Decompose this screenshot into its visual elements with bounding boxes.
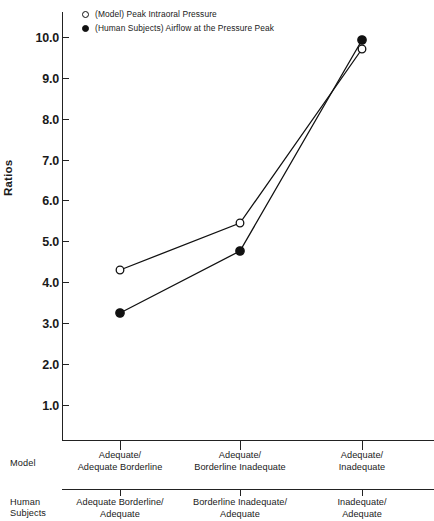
human-category-3-label: Inadequate/ Adequate: [337, 497, 386, 520]
human-category-2-line1: Borderline Inadequate/: [193, 497, 287, 509]
human-category-1-label: Adequate Borderline/ Adequate: [76, 497, 163, 520]
x-tick-1: [120, 441, 121, 450]
model-category-2-line1: Adequate/: [194, 450, 285, 462]
band-title-model: Model: [10, 458, 36, 469]
model-category-2-line2: Borderline Inadequate: [194, 462, 285, 474]
x-tick-3: [362, 441, 363, 450]
band2-tick-3: [362, 489, 363, 496]
y-tick-10: 10.0: [63, 37, 69, 38]
model-category-3-line2: Inadequate: [339, 462, 385, 474]
chart-canvas: (Model) Peak Intraoral Pressure (Human S…: [0, 0, 434, 521]
y-tick-7: 7.0: [63, 160, 69, 161]
model-category-2-label: Adequate/ Borderline Inadequate: [194, 450, 285, 473]
model-category-1-line2: Adequate Borderline: [78, 462, 163, 474]
model-category-1-line1: Adequate/: [78, 450, 163, 462]
plot-area: 10.0 9.0 8.0 7.0 6.0 5.0 4.0 3.0 2.0 1.0: [62, 12, 434, 441]
human-category-3-line2: Adequate: [337, 509, 386, 521]
model-category-1-label: Adequate/ Adequate Borderline: [78, 450, 163, 473]
human-category-3-line1: Inadequate/: [337, 497, 386, 509]
human-category-1-line1: Adequate Borderline/: [76, 497, 163, 509]
human-category-1-line2: Adequate: [76, 509, 163, 521]
model-category-3-label: Adequate/ Inadequate: [339, 450, 385, 473]
y-tick-9: 9.0: [63, 78, 69, 79]
y-tick-2: 2.0: [63, 364, 69, 365]
band2-tick-2: [240, 489, 241, 496]
x-tick-2: [240, 441, 241, 450]
y-tick-3: 3.0: [63, 323, 69, 324]
y-tick-1: 1.0: [63, 405, 69, 406]
band-title-human-subjects-line2: Subjects: [10, 508, 46, 519]
band2-tick-1: [120, 489, 121, 496]
y-tick-4: 4.0: [63, 282, 69, 283]
y-tick-6: 6.0: [63, 200, 69, 201]
band-separator-rule: [62, 489, 434, 490]
band-title-human-subjects: Human Subjects: [10, 497, 46, 519]
band-title-human-subjects-line1: Human: [10, 497, 46, 508]
human-category-2-label: Borderline Inadequate/ Adequate: [193, 497, 287, 520]
y-tick-8: 8.0: [63, 119, 69, 120]
y-tick-5: 5.0: [63, 241, 69, 242]
model-category-3-line1: Adequate/: [339, 450, 385, 462]
y-axis-title: Ratios: [2, 160, 14, 196]
human-category-2-line2: Adequate: [193, 509, 287, 521]
